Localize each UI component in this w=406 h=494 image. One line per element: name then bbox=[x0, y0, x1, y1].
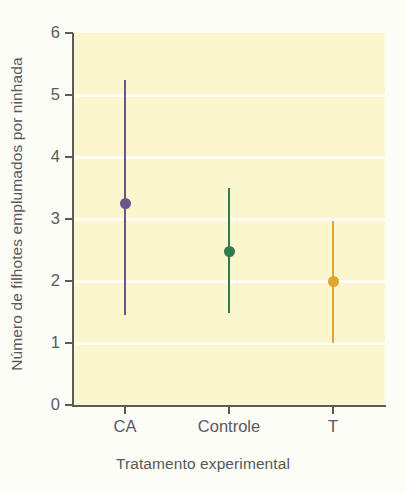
gridline bbox=[73, 94, 385, 97]
y-tick-label: 3 bbox=[20, 210, 60, 227]
y-tick-label: 0 bbox=[20, 396, 60, 413]
y-tick-mark bbox=[65, 94, 73, 96]
figure-panel: Número de filhotes emplumados por ninhad… bbox=[0, 0, 406, 494]
y-tick-label: 6 bbox=[20, 24, 60, 41]
y-tick-mark bbox=[65, 342, 73, 344]
y-tick-label: 5 bbox=[20, 86, 60, 103]
gridline bbox=[73, 342, 385, 345]
data-point-ca bbox=[120, 198, 131, 209]
y-tick-mark bbox=[65, 156, 73, 158]
data-point-controle bbox=[224, 246, 235, 257]
x-tick-label-controle: Controle bbox=[169, 417, 289, 436]
x-tick-mark bbox=[124, 406, 126, 414]
y-tick-mark bbox=[65, 404, 73, 406]
y-tick-label: 1 bbox=[20, 334, 60, 351]
x-tick-mark bbox=[332, 406, 334, 414]
x-tick-mark bbox=[228, 406, 230, 414]
x-tick-label-t: T bbox=[273, 417, 393, 436]
x-axis-title: Tratamento experimental bbox=[0, 455, 406, 473]
y-tick-label: 2 bbox=[20, 272, 60, 289]
y-tick-mark bbox=[65, 280, 73, 282]
data-point-t bbox=[328, 276, 339, 287]
y-tick-mark bbox=[65, 218, 73, 220]
y-tick-mark bbox=[65, 32, 73, 34]
x-tick-label-ca: CA bbox=[65, 417, 185, 436]
gridline bbox=[73, 156, 385, 159]
y-tick-label: 4 bbox=[20, 148, 60, 165]
